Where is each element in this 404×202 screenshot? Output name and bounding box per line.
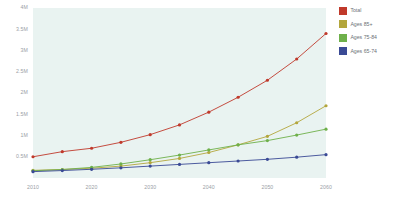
line-chart: 0.5M1M1.5M2M2.5M3M3.5M4M 201020202030204… bbox=[0, 0, 404, 202]
data-point[interactable] bbox=[90, 168, 93, 171]
y-axis-tick-label: 2M bbox=[2, 90, 28, 95]
data-point[interactable] bbox=[324, 128, 327, 131]
data-point[interactable] bbox=[324, 104, 327, 107]
x-axis-tick-label: 2020 bbox=[78, 185, 106, 190]
legend-item-label: Ages 65-74 bbox=[350, 49, 377, 54]
data-point[interactable] bbox=[178, 163, 181, 166]
legend-item-total[interactable]: Total bbox=[339, 7, 377, 15]
legend-item-ages-75-84[interactable]: Ages 75-84 bbox=[339, 34, 377, 42]
data-point[interactable] bbox=[149, 161, 152, 164]
data-point[interactable] bbox=[295, 121, 298, 124]
data-point[interactable] bbox=[119, 162, 122, 165]
legend-item-ages-85[interactable]: Ages 85+ bbox=[339, 20, 377, 28]
data-point[interactable] bbox=[324, 32, 327, 35]
x-axis-tick-label: 2030 bbox=[136, 185, 164, 190]
data-point[interactable] bbox=[31, 155, 34, 158]
data-point[interactable] bbox=[266, 139, 269, 142]
data-point[interactable] bbox=[295, 133, 298, 136]
data-point[interactable] bbox=[149, 165, 152, 168]
legend-item-label: Ages 75-84 bbox=[350, 35, 377, 40]
y-axis-tick-label: 0.5M bbox=[2, 154, 28, 159]
data-point[interactable] bbox=[207, 161, 210, 164]
data-point[interactable] bbox=[119, 141, 122, 144]
data-point[interactable] bbox=[61, 150, 64, 153]
data-point[interactable] bbox=[207, 148, 210, 151]
x-axis-tick-label: 2040 bbox=[195, 185, 223, 190]
data-point[interactable] bbox=[237, 159, 240, 162]
data-point[interactable] bbox=[90, 147, 93, 150]
x-axis-tick-label: 2060 bbox=[312, 185, 340, 190]
data-point[interactable] bbox=[295, 57, 298, 60]
data-point[interactable] bbox=[295, 156, 298, 159]
data-point[interactable] bbox=[266, 158, 269, 161]
plot-background bbox=[33, 8, 326, 178]
y-axis-tick-label: 3M bbox=[2, 48, 28, 53]
y-axis-tick-label: 1.5M bbox=[2, 112, 28, 117]
legend-swatch-icon bbox=[339, 34, 347, 42]
data-point[interactable] bbox=[178, 153, 181, 156]
data-point[interactable] bbox=[237, 143, 240, 146]
legend-item-ages-65-74[interactable]: Ages 65-74 bbox=[339, 47, 377, 55]
data-point[interactable] bbox=[178, 157, 181, 160]
chart-legend: TotalAges 85+Ages 75-84Ages 65-74 bbox=[339, 7, 377, 55]
legend-swatch-icon bbox=[339, 20, 347, 28]
x-axis-tick-label: 2050 bbox=[253, 185, 281, 190]
data-point[interactable] bbox=[178, 123, 181, 126]
legend-swatch-icon bbox=[339, 47, 347, 55]
data-point[interactable] bbox=[31, 170, 34, 173]
x-axis-tick-label: 2010 bbox=[19, 185, 47, 190]
legend-swatch-icon bbox=[339, 7, 347, 15]
data-point[interactable] bbox=[149, 133, 152, 136]
y-axis-tick-label: 3.5M bbox=[2, 27, 28, 32]
data-point[interactable] bbox=[149, 158, 152, 161]
y-axis-tick-label: 1M bbox=[2, 133, 28, 138]
legend-item-label: Ages 85+ bbox=[350, 22, 372, 27]
data-point[interactable] bbox=[61, 169, 64, 172]
data-point[interactable] bbox=[119, 166, 122, 169]
y-axis-tick-label: 4M bbox=[2, 5, 28, 10]
data-point[interactable] bbox=[207, 111, 210, 114]
data-point[interactable] bbox=[266, 79, 269, 82]
legend-item-label: Total bbox=[350, 8, 361, 13]
data-point[interactable] bbox=[266, 135, 269, 138]
data-point[interactable] bbox=[237, 96, 240, 99]
y-axis-tick-label: 2.5M bbox=[2, 69, 28, 74]
data-point[interactable] bbox=[324, 153, 327, 156]
